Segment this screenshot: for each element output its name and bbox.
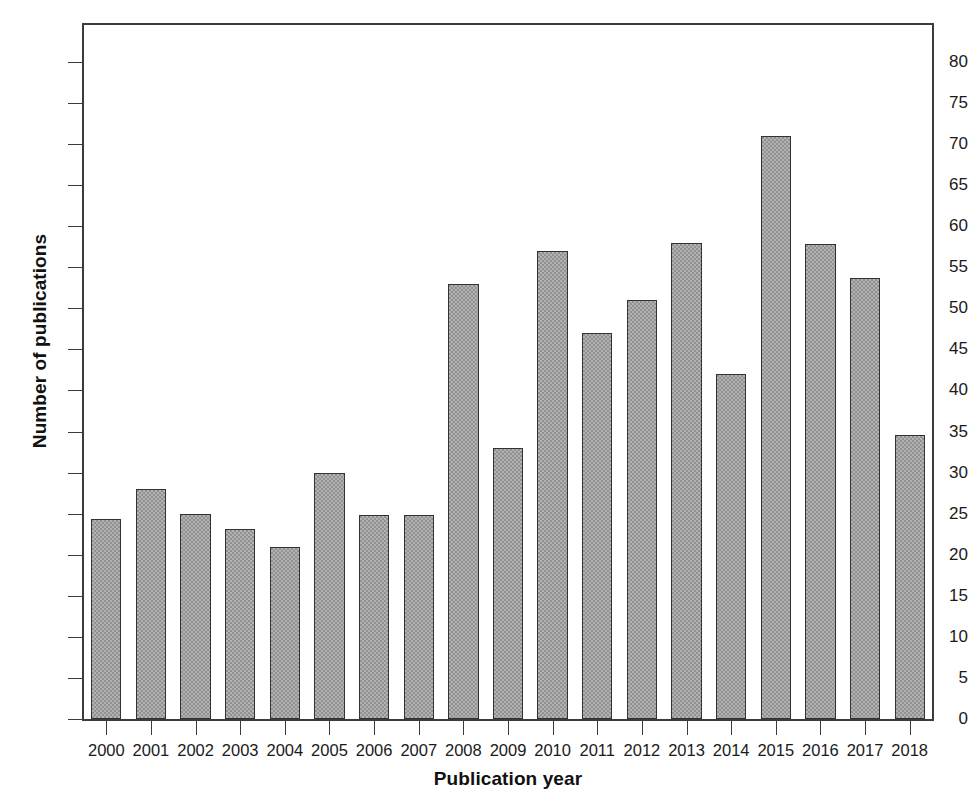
y-tick-mark [68, 103, 82, 104]
bar-2015 [761, 136, 791, 719]
bar-2003 [225, 529, 255, 719]
bar-2005 [314, 473, 344, 719]
x-tick-mark [820, 721, 821, 735]
x-tick-mark [776, 721, 777, 735]
y-tick-mark [68, 719, 82, 720]
y-tick-mark [68, 678, 82, 679]
x-tick-mark [865, 721, 866, 735]
y-tick-mark [68, 555, 82, 556]
y-tick-mark [68, 144, 82, 145]
bar-2017 [850, 278, 880, 719]
y-tick-mark [68, 308, 82, 309]
bar-2009 [493, 448, 523, 719]
y-tick-mark [68, 62, 82, 63]
bar-2004 [270, 547, 300, 719]
y-axis-title: Number of publications [29, 161, 51, 521]
bar-2008 [448, 284, 478, 719]
bar-chart-figure: Number of publications 05101520253035404… [0, 0, 968, 803]
bar-2014 [716, 374, 746, 719]
y-tick-mark [68, 514, 82, 515]
bar-2002 [180, 514, 210, 719]
x-tick-mark [285, 721, 286, 735]
bar-2012 [627, 300, 657, 719]
bar-2006 [359, 515, 389, 720]
bar-2001 [136, 489, 166, 719]
y-tick-mark [68, 637, 82, 638]
x-tick-mark [731, 721, 732, 735]
x-tick-mark [508, 721, 509, 735]
y-tick-mark [68, 349, 82, 350]
y-tick-mark [68, 473, 82, 474]
x-tick-mark [910, 721, 911, 735]
x-tick-label: 2018 [880, 741, 940, 760]
x-tick-mark [642, 721, 643, 735]
y-tick-mark [68, 390, 82, 391]
x-tick-mark [374, 721, 375, 735]
bar-2010 [537, 251, 567, 719]
bar-2018 [895, 435, 925, 719]
bar-2007 [404, 515, 434, 719]
bars-container [84, 25, 932, 719]
bar-2000 [91, 519, 121, 719]
x-tick-mark [597, 721, 598, 735]
x-tick-mark [463, 721, 464, 735]
x-tick-mark [553, 721, 554, 735]
x-tick-mark [151, 721, 152, 735]
y-tick-mark [68, 596, 82, 597]
bar-2011 [582, 333, 612, 719]
bar-2013 [671, 243, 701, 719]
y-tick-mark [68, 226, 82, 227]
x-tick-mark [419, 721, 420, 735]
y-tick-mark [68, 185, 82, 186]
y-tick-mark [68, 432, 82, 433]
x-tick-mark [687, 721, 688, 735]
x-axis-title: Publication year [82, 768, 934, 790]
y-tick-mark [68, 267, 82, 268]
bar-2016 [805, 244, 835, 719]
x-tick-mark [240, 721, 241, 735]
x-tick-mark [196, 721, 197, 735]
x-tick-mark [329, 721, 330, 735]
x-tick-mark [106, 721, 107, 735]
